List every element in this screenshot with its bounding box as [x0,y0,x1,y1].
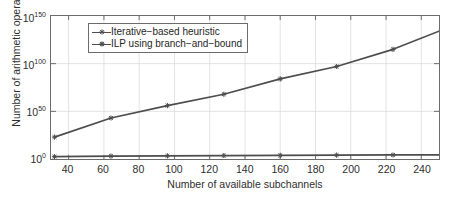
legend-label: ILP using branch−and−bound [111,38,242,50]
star-icon [99,29,105,35]
data-point [390,152,395,157]
data-point [108,115,113,120]
y-tick-base: 10 [23,59,35,71]
data-point [278,76,283,81]
legend[interactable]: Iterative−based heuristic ILP using bran… [88,23,248,53]
data-point [165,103,170,108]
x-tick-label: 200 [342,163,360,175]
y-tick-base: 10 [23,12,35,24]
data-point [165,153,170,158]
data-point [278,153,283,158]
data-point [334,64,339,69]
x-axis-title: Number of available subchannels [50,178,440,190]
x-tick-label: 140 [236,163,254,175]
x-tick-label: 220 [378,163,396,175]
y-tick-exponent: 150 [34,11,46,18]
legend-marker-star-icon [92,39,111,49]
figure-canvas: Number of arithmetic operations 10150 10… [0,0,453,202]
series-iterative-based-heuristic [52,152,439,159]
x-tick-label: 120 [201,163,219,175]
y-tick-label-0: 100 [0,152,46,165]
data-point [52,154,57,159]
legend-marker-star-icon [92,27,111,37]
legend-item-iterative-based-heuristic[interactable]: Iterative−based heuristic [92,26,242,38]
legend-label: Iterative−based heuristic [111,26,220,38]
y-tick-base: 10 [27,106,39,118]
x-tick-label: 40 [62,163,74,175]
x-tick-label: 80 [133,163,145,175]
x-tick-label: 180 [307,163,325,175]
x-tick-label: 240 [413,163,431,175]
data-point [52,135,57,140]
data-point [108,154,113,159]
y-tick-exponent: 100 [34,58,46,65]
data-point [390,47,395,52]
data-point [221,92,226,97]
y-tick-base: 10 [30,153,42,165]
x-tick-label: 60 [97,163,109,175]
data-point [334,153,339,158]
y-tick-label-50: 1050 [0,105,46,118]
legend-item-ilp-branch-and-bound[interactable]: ILP using branch−and−bound [92,38,242,50]
x-tick-label: 100 [165,163,183,175]
y-tick-label-150: 10150 [0,11,46,24]
star-icon [99,41,105,47]
y-tick-exponent: 0 [42,152,46,159]
y-tick-label-100: 10100 [0,58,46,71]
x-tick-label: 160 [271,163,289,175]
y-tick-exponent: 50 [38,105,46,112]
data-point [221,153,226,158]
